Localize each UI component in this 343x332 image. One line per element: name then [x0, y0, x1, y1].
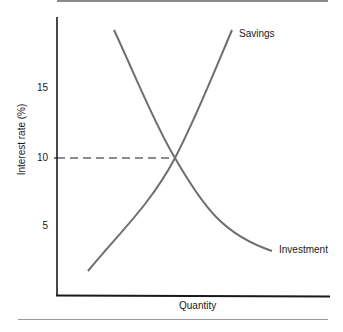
y-tick-label-5: 5	[28, 220, 48, 231]
investment-label: Investment	[279, 244, 328, 255]
savings-label: Savings	[239, 28, 275, 39]
y-axis-label: Interest rate (%)	[16, 95, 27, 185]
investment-curve	[114, 30, 272, 251]
x-axis-label: Quantity	[179, 300, 216, 311]
x-axis	[56, 296, 330, 297]
y-tick-label-10: 10	[28, 152, 48, 163]
bottom-rule	[18, 319, 328, 320]
y-tick-label-15: 15	[28, 82, 48, 93]
savings-curve	[88, 30, 232, 271]
chart-plot	[0, 0, 343, 332]
